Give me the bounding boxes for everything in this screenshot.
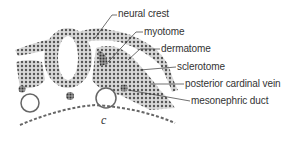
panel-letter: c xyxy=(101,113,106,128)
mesonephric-duct-shape xyxy=(121,85,128,92)
somite-left xyxy=(16,60,45,88)
label-posterior-cardinal-vein: posterior cardinal vein xyxy=(185,79,281,89)
left-duct xyxy=(19,86,26,93)
embryo-cross-section-illustration xyxy=(0,0,281,144)
notochord xyxy=(66,92,74,100)
label-dermatome: dermatome xyxy=(161,44,211,54)
label-myotome: myotome xyxy=(144,27,184,37)
label-mesonephric-duct: mesonephric duct xyxy=(191,96,268,106)
neural-canal xyxy=(58,36,78,80)
vessel-left xyxy=(21,94,39,112)
label-neural-crest: neural crest xyxy=(118,9,169,19)
label-sclerotome: sclerotome xyxy=(177,62,225,72)
